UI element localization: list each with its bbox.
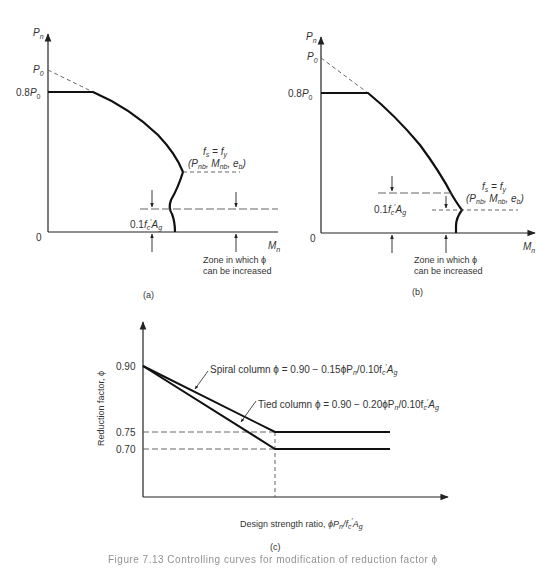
spiral-label: Spiral column ϕ = 0.90 − 0.15ϕPn/0.10fc′… — [210, 363, 397, 377]
tick-p0: P0 — [33, 64, 44, 77]
tied-label: Tied column ϕ = 0.90 − 0.20ϕPn/0.10fc′Ag — [258, 398, 439, 412]
x-axis-label: Mn — [523, 241, 535, 254]
balanced-label-line2: (Pnb, Mnb, eb) — [188, 158, 246, 170]
origin-label: 0 — [310, 233, 316, 244]
tick-08p0: 0.8P0 — [288, 88, 313, 101]
tick-p0: P0 — [307, 51, 318, 64]
spiral-leader — [195, 371, 208, 389]
interaction-curve — [48, 92, 183, 232]
threshold-label: 0.1fc′Ag — [374, 203, 406, 217]
tick-08p0: 0.8P0 — [16, 87, 41, 100]
x-axis-label: Mn — [268, 240, 280, 253]
origin-label: 0 — [36, 232, 42, 243]
x-axis-label: Design strength ratio, ϕPn/fc′Ag — [240, 517, 363, 531]
tick-070: 0.70 — [116, 444, 136, 455]
panel-b: Pn Mn 0 P0 0.8P0 fs = fy (Pnb, Mnb, eb) … — [288, 31, 535, 297]
panel-c: Reduction factor, ϕ 0.90 0.75 0.70 Spira… — [96, 322, 448, 552]
panel-a-label: (a) — [143, 290, 154, 300]
threshold-label: 0.1fc′Ag — [130, 218, 162, 232]
panel-a: Pn Mn 0 P0 0.8P0 fs = fy (Pnb, Mnb, eb) … — [16, 27, 280, 300]
y-axis-label: Pn — [306, 31, 317, 44]
balanced-label-line2: (Pnb, Mnb, eb) — [466, 193, 524, 205]
zone-label-line1: Zone in which ϕ — [203, 255, 266, 265]
figure-caption: Figure 7.13 Controlling curves for modif… — [108, 554, 438, 565]
zone-label-line1: Zone in which ϕ — [414, 255, 477, 265]
tick-090: 0.90 — [116, 361, 136, 372]
tick-075: 0.75 — [116, 427, 136, 438]
y-axis-label: Reduction factor, ϕ — [96, 371, 106, 446]
p0-dashed-line — [321, 58, 368, 93]
zone-label-line2: can be increased — [203, 266, 272, 276]
zone-label-line2: can be increased — [414, 266, 483, 276]
y-axis-label: Pn — [33, 27, 44, 40]
panel-c-label: (c) — [270, 542, 281, 552]
figure-canvas: Pn Mn 0 P0 0.8P0 fs = fy (Pnb, Mnb, eb) … — [0, 0, 554, 570]
p0-dashed-line — [48, 70, 93, 92]
panel-b-label: (b) — [412, 287, 423, 297]
